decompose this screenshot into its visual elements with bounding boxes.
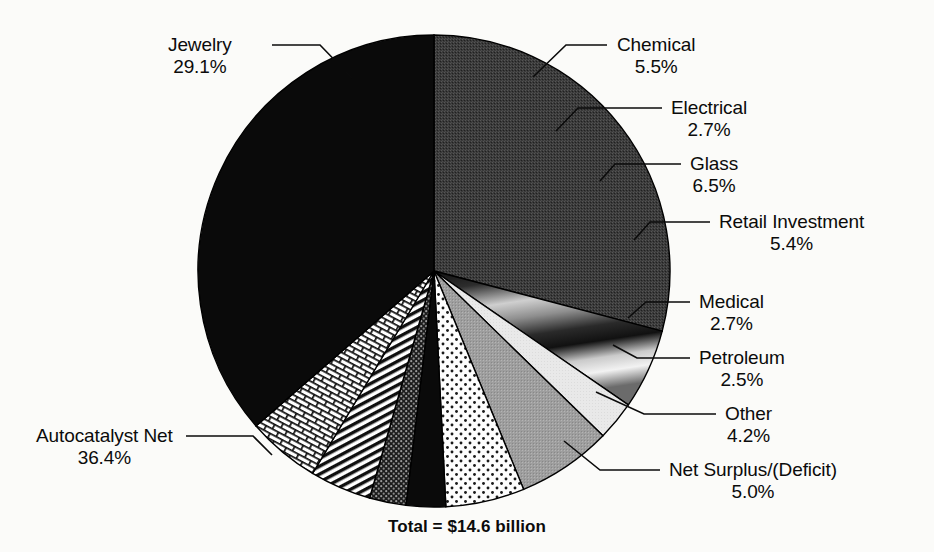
slice-label-name-petroleum: Petroleum xyxy=(699,347,785,369)
leader-line-autocatalyst-net xyxy=(186,436,272,455)
slice-label-name-jewelry: Jewelry xyxy=(168,34,232,56)
chart-total-title: Total = $14.6 billion xyxy=(0,517,934,537)
slice-label-jewelry: Jewelry29.1% xyxy=(168,34,232,79)
slice-label-glass: Glass6.5% xyxy=(690,153,738,198)
slice-label-value-net-surplus-deficit: 5.0% xyxy=(669,481,837,503)
slice-label-electrical: Electrical2.7% xyxy=(671,97,747,142)
slice-label-value-jewelry: 29.1% xyxy=(168,56,232,78)
slice-label-petroleum: Petroleum2.5% xyxy=(699,347,785,392)
slice-label-name-medical: Medical xyxy=(699,291,764,313)
slice-label-retail-investment: Retail Investment5.4% xyxy=(719,211,864,256)
slice-label-value-autocatalyst-net: 36.4% xyxy=(36,447,173,469)
slice-label-name-autocatalyst-net: Autocatalyst Net xyxy=(36,425,173,447)
slice-label-value-other: 4.2% xyxy=(725,425,772,447)
pie-chart-figure: Jewelry29.1%Chemical5.5%Electrical2.7%Gl… xyxy=(0,0,934,552)
slice-label-medical: Medical2.7% xyxy=(699,291,764,336)
slice-label-value-petroleum: 2.5% xyxy=(699,369,785,391)
slice-label-autocatalyst-net: Autocatalyst Net36.4% xyxy=(36,425,173,470)
slice-label-name-other: Other xyxy=(725,403,772,425)
slice-label-chemical: Chemical5.5% xyxy=(617,34,695,79)
slice-label-name-electrical: Electrical xyxy=(671,97,747,119)
slice-label-name-glass: Glass xyxy=(690,153,738,175)
slice-label-value-glass: 6.5% xyxy=(690,175,738,197)
slice-label-value-retail-investment: 5.4% xyxy=(719,233,864,255)
slice-label-name-retail-investment: Retail Investment xyxy=(719,211,864,233)
slice-label-value-medical: 2.7% xyxy=(699,313,764,335)
slice-label-value-electrical: 2.7% xyxy=(671,119,747,141)
slice-label-name-net-surplus-deficit: Net Surplus/(Deficit) xyxy=(669,459,837,481)
slice-label-net-surplus-deficit: Net Surplus/(Deficit)5.0% xyxy=(669,459,837,504)
slice-label-other: Other4.2% xyxy=(725,403,772,448)
slice-label-value-chemical: 5.5% xyxy=(617,56,695,78)
pie-slices-group xyxy=(198,35,670,507)
slice-label-name-chemical: Chemical xyxy=(617,34,695,56)
